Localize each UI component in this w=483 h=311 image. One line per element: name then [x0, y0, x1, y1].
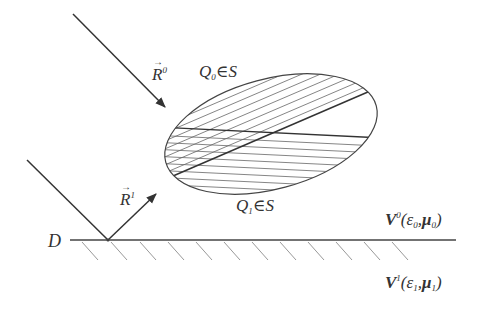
reflection-diagram [0, 0, 483, 311]
diagonal-hatch-upper [160, 8, 400, 175]
label-incident-vector: R0 [152, 66, 167, 83]
incident-ray-arrow [73, 14, 165, 107]
vector-R0: R [152, 66, 162, 83]
horizontal-hatch-lower [150, 135, 400, 210]
ground-hatching [82, 242, 408, 260]
bold-diagonal-line [160, 83, 390, 182]
label-lower-point: Q1∈S [236, 197, 274, 216]
label-reflected-vector: R1 [120, 191, 135, 208]
label-medium-lower: V1(ε1,μ1) [385, 274, 442, 293]
label-medium-upper: V0(ε0,μ0) [385, 211, 442, 230]
vector-R1: R [120, 191, 130, 208]
incident-line-to-ground [27, 160, 108, 240]
label-upper-point: Q0∈S [199, 63, 237, 82]
ellipse-region-S [150, 8, 400, 215]
label-boundary-D: D [48, 232, 61, 250]
